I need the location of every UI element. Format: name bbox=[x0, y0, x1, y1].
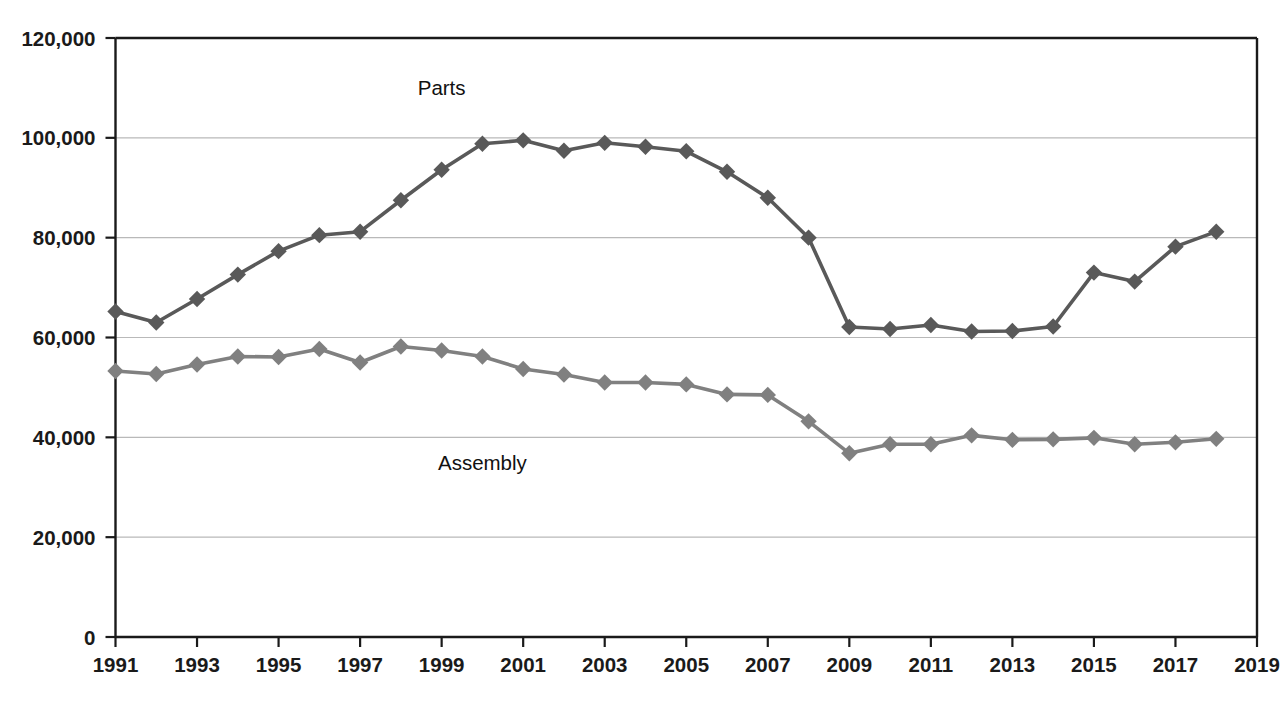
data-point-marker bbox=[1086, 430, 1102, 446]
data-point-marker bbox=[882, 436, 898, 452]
data-point-marker bbox=[474, 348, 490, 364]
y-tick-label: 60,000 bbox=[33, 326, 96, 349]
data-point-marker bbox=[1126, 436, 1142, 452]
data-point-marker bbox=[230, 348, 246, 364]
data-point-marker bbox=[597, 135, 613, 151]
y-axis-ticks bbox=[106, 38, 116, 637]
data-point-marker bbox=[1045, 431, 1061, 447]
data-point-marker bbox=[270, 349, 286, 365]
y-tick-label: 20,000 bbox=[33, 526, 96, 549]
data-point-marker bbox=[556, 366, 572, 382]
data-point-marker bbox=[637, 139, 653, 155]
data-point-marker bbox=[1004, 432, 1020, 448]
data-point-marker bbox=[923, 317, 939, 333]
series-parts bbox=[107, 132, 1224, 340]
data-point-marker bbox=[230, 266, 246, 282]
data-point-marker bbox=[841, 319, 857, 335]
data-point-marker bbox=[311, 341, 327, 357]
data-point-marker bbox=[148, 366, 164, 382]
chart-canvas: 020,00040,00060,00080,000100,000120,000 … bbox=[0, 0, 1287, 701]
line-chart: 020,00040,00060,00080,000100,000120,000 … bbox=[0, 0, 1287, 701]
data-series-layer bbox=[107, 132, 1224, 461]
data-point-marker bbox=[311, 227, 327, 243]
data-point-marker bbox=[270, 243, 286, 259]
data-point-marker bbox=[1004, 323, 1020, 339]
data-point-marker bbox=[107, 303, 123, 319]
data-point-marker bbox=[433, 342, 449, 358]
data-point-marker bbox=[148, 314, 164, 330]
x-tick-label: 2001 bbox=[500, 653, 546, 676]
data-point-marker bbox=[923, 436, 939, 452]
series-label-assembly: Assembly bbox=[438, 451, 528, 474]
data-point-marker bbox=[352, 354, 368, 370]
data-point-marker bbox=[678, 376, 694, 392]
y-tick-label: 80,000 bbox=[33, 226, 96, 249]
data-point-marker bbox=[107, 363, 123, 379]
x-tick-label: 2013 bbox=[990, 653, 1036, 676]
x-tick-label: 1991 bbox=[93, 653, 139, 676]
data-point-marker bbox=[1167, 434, 1183, 450]
gridlines bbox=[116, 38, 1258, 537]
data-point-marker bbox=[719, 386, 735, 402]
x-tick-label: 2019 bbox=[1234, 653, 1280, 676]
x-tick-label: 2003 bbox=[582, 653, 628, 676]
series-line bbox=[116, 140, 1217, 331]
y-tick-label: 40,000 bbox=[33, 426, 96, 449]
x-tick-label: 2009 bbox=[827, 653, 873, 676]
data-point-marker bbox=[556, 143, 572, 159]
data-point-marker bbox=[515, 132, 531, 148]
data-point-marker bbox=[597, 374, 613, 390]
y-tick-label: 120,000 bbox=[21, 27, 95, 50]
x-axis-ticks bbox=[116, 637, 1258, 647]
series-label-parts: Parts bbox=[418, 76, 466, 99]
x-tick-label: 1995 bbox=[256, 653, 302, 676]
y-tick-label: 0 bbox=[84, 626, 95, 649]
data-point-marker bbox=[637, 374, 653, 390]
y-axis-tick-labels: 020,00040,00060,00080,000100,000120,000 bbox=[21, 27, 95, 649]
x-tick-label: 1997 bbox=[337, 653, 383, 676]
x-tick-label: 2011 bbox=[909, 653, 953, 676]
x-tick-label: 2015 bbox=[1071, 653, 1117, 676]
data-point-marker bbox=[189, 356, 205, 372]
data-point-marker bbox=[1208, 431, 1224, 447]
data-point-marker bbox=[678, 143, 694, 159]
series-annotations: PartsAssembly bbox=[418, 76, 528, 473]
x-axis-tick-labels: 1991199319951997199920012003200520072009… bbox=[93, 653, 1280, 676]
series-assembly bbox=[107, 338, 1224, 461]
x-tick-label: 2017 bbox=[1153, 653, 1199, 676]
data-point-marker bbox=[515, 361, 531, 377]
data-point-marker bbox=[393, 338, 409, 354]
x-tick-label: 1999 bbox=[419, 653, 465, 676]
data-point-marker bbox=[882, 321, 898, 337]
x-tick-label: 2007 bbox=[745, 653, 791, 676]
data-point-marker bbox=[963, 427, 979, 443]
data-point-marker bbox=[189, 291, 205, 307]
x-tick-label: 2005 bbox=[663, 653, 709, 676]
y-tick-label: 100,000 bbox=[21, 126, 95, 149]
x-tick-label: 1993 bbox=[174, 653, 220, 676]
